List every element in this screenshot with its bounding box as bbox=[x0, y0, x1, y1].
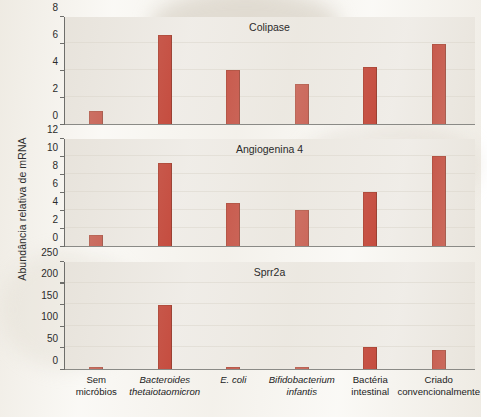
gridline bbox=[64, 69, 475, 70]
plot-area bbox=[64, 17, 475, 125]
y-axis-tick bbox=[60, 70, 64, 71]
y-axis-tick bbox=[60, 304, 64, 305]
y-axis-tick-label: 200 bbox=[41, 268, 58, 279]
gridline bbox=[64, 191, 475, 192]
bar bbox=[295, 367, 309, 369]
bar bbox=[158, 305, 172, 369]
gridline bbox=[64, 173, 475, 174]
chart-title: Sprr2a bbox=[64, 266, 475, 278]
bar bbox=[295, 84, 309, 125]
y-axis-tick bbox=[60, 369, 64, 370]
x-axis-category-labels: SemmicróbiosBacteroidesthetaiotaomicronE… bbox=[64, 374, 475, 414]
y-axis-tick-label: 0 bbox=[52, 231, 58, 242]
bar bbox=[295, 210, 309, 246]
gridline bbox=[64, 209, 475, 210]
chart-panel-sprr2a: Sprr2a 050100150200250 bbox=[64, 262, 475, 370]
plot-area bbox=[64, 262, 475, 370]
chart-title: Colipase bbox=[64, 21, 475, 33]
gridline bbox=[64, 346, 475, 347]
gridline bbox=[64, 155, 475, 156]
bar bbox=[363, 67, 377, 124]
y-axis-tick-label: 6 bbox=[52, 177, 58, 188]
bar bbox=[432, 350, 446, 369]
y-axis-tick bbox=[60, 347, 64, 348]
bar bbox=[226, 203, 240, 246]
y-axis-tick-label: 4 bbox=[52, 55, 58, 66]
y-axis-tick-label: 8 bbox=[52, 159, 58, 170]
y-axis-tick-label: 0 bbox=[52, 109, 58, 120]
y-axis-tick-label: 6 bbox=[52, 28, 58, 39]
y-axis-tick-label: 8 bbox=[52, 1, 58, 12]
gridline bbox=[64, 96, 475, 97]
y-axis-tick-label: 4 bbox=[52, 195, 58, 206]
x-axis-category-line2: thetaiotaomicron bbox=[117, 386, 213, 398]
y-axis-spine: 02468 bbox=[64, 17, 65, 125]
y-axis-tick-label: 100 bbox=[41, 311, 58, 322]
y-axis-tick bbox=[60, 138, 64, 139]
x-axis-category-line2: convencionalmente bbox=[391, 386, 487, 398]
y-axis-label: Abundância relativa de mRNA bbox=[12, 0, 32, 417]
y-axis-tick-label: 150 bbox=[41, 289, 58, 300]
y-axis-tick bbox=[60, 326, 64, 327]
y-axis-spine: 050100150200250 bbox=[64, 262, 65, 370]
bar bbox=[226, 367, 240, 369]
bar bbox=[432, 44, 446, 124]
y-axis-tick-label: 0 bbox=[52, 354, 58, 365]
y-axis-tick bbox=[60, 282, 64, 283]
bar bbox=[432, 156, 446, 246]
y-axis-tick bbox=[60, 124, 64, 125]
y-axis-tick bbox=[60, 97, 64, 98]
gridline bbox=[64, 227, 475, 228]
y-axis-tick bbox=[60, 156, 64, 157]
x-axis-category-label: Criadoconvencionalmente bbox=[391, 374, 487, 397]
bar bbox=[226, 70, 240, 124]
chart-panel-angiogenina-4: Angiogenina 4 024681012 bbox=[64, 139, 475, 247]
x-axis-category-line1: Criado bbox=[391, 374, 487, 386]
y-axis-spine: 024681012 bbox=[64, 139, 65, 247]
y-axis-tick bbox=[60, 261, 64, 262]
gridline bbox=[64, 303, 475, 304]
y-axis-tick-label: 2 bbox=[52, 82, 58, 93]
gridline bbox=[64, 42, 475, 43]
y-axis-tick bbox=[60, 16, 64, 17]
bar bbox=[89, 367, 103, 369]
y-axis-tick bbox=[60, 228, 64, 229]
bar bbox=[158, 163, 172, 246]
bar bbox=[89, 111, 103, 125]
gridline bbox=[64, 282, 475, 283]
bar bbox=[89, 235, 103, 246]
y-axis-tick bbox=[60, 246, 64, 247]
y-axis-tick bbox=[60, 192, 64, 193]
bar bbox=[158, 35, 172, 124]
y-axis-tick-label: 2 bbox=[52, 213, 58, 224]
chart-title: Angiogenina 4 bbox=[64, 143, 475, 155]
y-axis-tick-label: 10 bbox=[47, 141, 58, 152]
gridline bbox=[64, 325, 475, 326]
y-axis-label-text: Abundância relativa de mRNA bbox=[16, 137, 28, 280]
plot-area bbox=[64, 139, 475, 247]
chart-panel-colipase: Colipase 02468 bbox=[64, 17, 475, 125]
y-axis-tick-label: 250 bbox=[41, 246, 58, 257]
y-axis-tick bbox=[60, 210, 64, 211]
y-axis-tick bbox=[60, 174, 64, 175]
y-axis-tick bbox=[60, 43, 64, 44]
y-axis-tick-label: 12 bbox=[47, 123, 58, 134]
y-axis-tick-label: 50 bbox=[47, 332, 58, 343]
bar bbox=[363, 347, 377, 369]
bar bbox=[363, 192, 377, 246]
